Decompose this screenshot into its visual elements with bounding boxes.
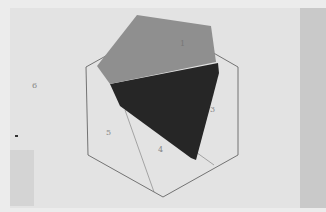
photo-scene: 6 5 4 3 1 bbox=[0, 0, 326, 212]
label-6: 6 bbox=[32, 81, 37, 90]
label-5: 5 bbox=[106, 128, 111, 137]
label-1: 1 bbox=[180, 39, 185, 48]
corner-box bbox=[10, 150, 34, 206]
template-photo: 6 5 4 3 1 bbox=[0, 0, 326, 212]
label-4: 4 bbox=[158, 145, 163, 154]
mark bbox=[15, 135, 18, 137]
right-strip bbox=[300, 8, 326, 208]
label-3: 3 bbox=[210, 105, 215, 114]
